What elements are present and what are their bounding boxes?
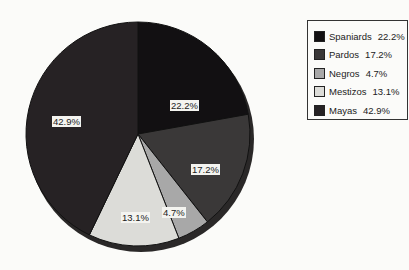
- legend-value: 22.2%: [378, 31, 405, 42]
- legend-swatch: [314, 105, 325, 116]
- legend-item-spaniards: Spaniards 22.2%: [314, 27, 407, 46]
- legend-item-mayas: Mayas 42.9%: [314, 101, 407, 120]
- legend-label: Spaniards: [329, 31, 372, 42]
- pie-label-pardos: 17.2%: [191, 164, 220, 175]
- legend-item-negros: Negros 4.7%: [314, 64, 407, 83]
- legend-value: 17.2%: [365, 49, 392, 60]
- legend-value: 4.7%: [366, 68, 388, 79]
- legend-swatch: [314, 49, 325, 60]
- legend-swatch: [314, 68, 325, 79]
- legend-value: 13.1%: [372, 86, 399, 97]
- pie-label-negros: 4.7%: [162, 207, 186, 218]
- legend-value: 42.9%: [363, 105, 390, 116]
- legend-item-pardos: Pardos 17.2%: [314, 46, 407, 65]
- pie-label-mestizos: 13.1%: [121, 212, 150, 223]
- legend-label: Mayas: [329, 105, 357, 116]
- legend-swatch: [314, 86, 325, 97]
- pie-label-spaniards: 22.2%: [170, 100, 199, 111]
- legend: Spaniards 22.2% Pardos 17.2% Negros 4.7%…: [307, 20, 408, 120]
- pie-label-mayas: 42.9%: [52, 116, 81, 127]
- legend-item-mestizos: Mestizos 13.1%: [314, 83, 407, 102]
- legend-swatch: [314, 31, 325, 42]
- legend-label: Mestizos: [329, 86, 366, 97]
- legend-label: Pardos: [329, 49, 359, 60]
- legend-label: Negros: [329, 68, 360, 79]
